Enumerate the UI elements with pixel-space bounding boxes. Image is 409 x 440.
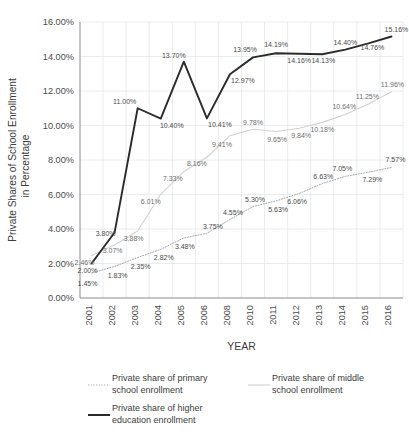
y-tick-label: 2.00% (48, 259, 74, 269)
data-label: 7.29% (362, 176, 382, 183)
data-label: 6.01% (141, 198, 161, 205)
data-label: 14.13% (311, 57, 335, 64)
x-tick-label: 2005 (176, 305, 186, 325)
data-label: 10.40% (160, 122, 184, 129)
data-label: 2.35% (131, 263, 151, 270)
data-label: 7.05% (332, 165, 352, 172)
data-label: 13.95% (233, 46, 257, 53)
y-tick-label: 6.00% (48, 190, 74, 200)
data-label: 1.83% (108, 272, 128, 279)
data-label: 8.16% (187, 160, 207, 167)
x-tick-label: 2011 (268, 305, 278, 325)
data-label: 9.65% (267, 136, 287, 143)
data-label: 11.00% (113, 98, 136, 105)
y-tick-label: 0.00% (48, 293, 74, 303)
data-label: 2.00% (78, 267, 98, 274)
data-label: 3.80% (96, 230, 116, 237)
x-tick-label: 2015 (360, 305, 370, 325)
legend-label[interactable]: school enrollment (112, 385, 183, 395)
y-axis-title-line2: in Percentage (20, 134, 31, 197)
x-axis-title: YEAR (227, 340, 256, 352)
chart-legend: Private share of primaryschool enrollmen… (88, 373, 364, 425)
data-label: 6.63% (313, 173, 333, 180)
y-axis-title-line1: Private Shares of School Enrollment (7, 78, 18, 242)
legend-label[interactable]: school enrollment (272, 385, 343, 395)
x-tick-label: 2003 (130, 305, 140, 325)
data-label: 14.40% (333, 39, 357, 46)
data-label: 9.84% (291, 132, 311, 139)
x-axis-tick-labels: 2001200220032004200520062008201020112012… (84, 305, 394, 325)
x-tick-label: 2016 (383, 305, 393, 325)
legend-label[interactable]: education enrollment (112, 415, 196, 425)
data-label: 3.48% (175, 243, 195, 250)
data-label: 13.70% (162, 52, 186, 59)
legend-label[interactable]: Private share of middle (272, 373, 364, 383)
data-label: 14.19% (264, 41, 288, 48)
data-label: 2.82% (154, 254, 174, 261)
data-label: 15.16% (385, 26, 409, 33)
x-tick-label: 2008 (222, 305, 232, 325)
y-tick-label: 10.00% (43, 121, 74, 131)
data-label: 12.97% (231, 77, 255, 84)
data-label: 7.57% (386, 156, 406, 163)
data-label: 5.63% (268, 206, 288, 213)
x-tick-label: 2012 (291, 305, 301, 325)
legend-label[interactable]: Private share of primary (112, 373, 208, 383)
data-label: 9.78% (243, 119, 263, 126)
line-chart: 0.00%2.00%4.00%6.00%8.00%10.00%12.00%14.… (0, 0, 409, 440)
data-label: 6.06% (287, 198, 307, 205)
data-label: 4.55% (223, 209, 243, 216)
x-tick-label: 2004 (153, 305, 163, 325)
data-label: 3.07% (103, 247, 123, 254)
x-tick-label: 2010 (245, 305, 255, 325)
data-label: 5.30% (245, 196, 265, 203)
y-tick-label: 16.00% (43, 17, 74, 27)
data-label: 10.64% (332, 103, 356, 110)
data-label: 14.16% (287, 57, 311, 64)
data-label: 3.88% (124, 235, 144, 242)
data-label: 14.76% (361, 44, 385, 51)
x-tick-label: 2006 (199, 305, 209, 325)
data-label: 2.46% (75, 259, 95, 266)
data-label: 11.96% (381, 81, 404, 88)
data-label: 10.18% (310, 126, 334, 133)
legend-label[interactable]: Private share of higher (112, 403, 203, 413)
y-tick-label: 8.00% (48, 155, 74, 165)
x-tick-label: 2001 (84, 305, 94, 325)
y-tick-label: 14.00% (43, 52, 74, 62)
x-tick-label: 2013 (314, 305, 324, 325)
data-label: 1.45% (78, 280, 98, 287)
chart-container: 0.00%2.00%4.00%6.00%8.00%10.00%12.00%14.… (0, 0, 409, 440)
y-tick-label: 4.00% (48, 224, 74, 234)
data-label: 10.41% (208, 121, 232, 128)
x-tick-label: 2002 (107, 305, 117, 325)
data-label: 9.41% (212, 141, 232, 148)
y-tick-label: 12.00% (43, 86, 74, 96)
data-label: 11.25% (356, 93, 379, 100)
y-axis-tick-labels: 0.00%2.00%4.00%6.00%8.00%10.00%12.00%14.… (43, 17, 74, 303)
x-tick-label: 2014 (337, 305, 347, 325)
data-label: 3.75% (203, 223, 223, 230)
data-label: 7.33% (163, 175, 183, 182)
